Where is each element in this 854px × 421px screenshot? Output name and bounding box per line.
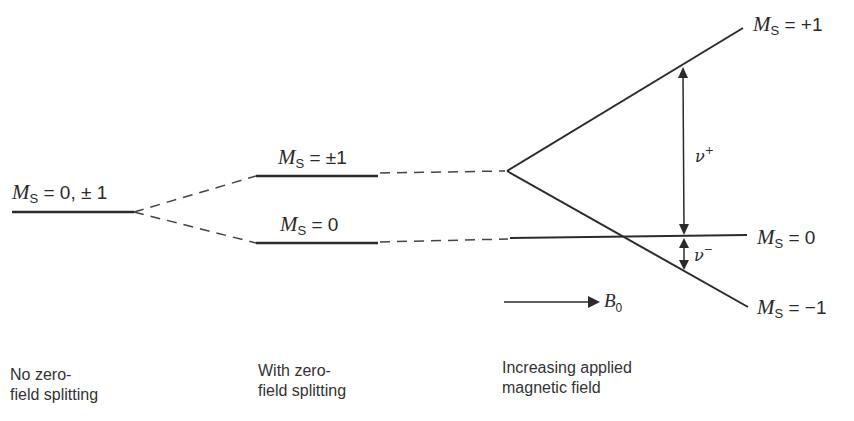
- level-field-minus: [507, 171, 748, 307]
- value: = ±1: [309, 147, 346, 168]
- caption-line: field splitting: [258, 381, 346, 401]
- symbol: ν: [694, 246, 704, 265]
- value: = +1: [784, 14, 822, 35]
- caption-with-zfs: With zero- field splitting: [258, 361, 346, 401]
- symbol: M: [280, 212, 298, 236]
- value: = 0, ± 1: [43, 182, 107, 203]
- caption-line: Increasing applied: [502, 358, 632, 378]
- symbol: M: [12, 180, 30, 204]
- nu-minus-label: ν−: [694, 243, 713, 265]
- label-zfs-upper: MS = ±1: [278, 147, 347, 170]
- energy-level-diagram: [0, 0, 854, 421]
- symbol: M: [757, 225, 775, 249]
- label-zfs-lower: MS = 0: [280, 214, 338, 237]
- symbol: M: [278, 145, 296, 169]
- arrowhead-down-icon: [679, 224, 689, 235]
- symbol: M: [757, 295, 775, 319]
- label-field-minus: MS = −1: [757, 297, 827, 320]
- field-label: B0: [604, 290, 622, 315]
- value: = 0: [311, 214, 338, 235]
- symbol: B: [604, 290, 616, 311]
- symbol: M: [753, 12, 771, 36]
- nu-plus-label: ν+: [695, 144, 714, 166]
- level-field-zero: [510, 235, 747, 238]
- nu-plus-arrow: [683, 75, 684, 230]
- dashed-split-upper: [134, 176, 256, 212]
- label-field-plus: MS = +1: [753, 14, 823, 37]
- dashed-continue-upper: [380, 171, 505, 173]
- subscript: S: [775, 306, 784, 321]
- subscript: S: [296, 156, 305, 171]
- arrowhead-right-icon: [588, 296, 600, 308]
- caption-line: field splitting: [10, 385, 98, 405]
- subscript: 0: [616, 301, 623, 315]
- subscript: S: [771, 23, 780, 38]
- caption-line: With zero-: [258, 361, 346, 381]
- label-field-zero: MS = 0: [757, 227, 815, 250]
- dashed-split-lower: [134, 212, 256, 243]
- arrowhead-up-icon: [678, 67, 688, 78]
- caption-line: No zero-: [10, 365, 98, 385]
- superscript: −: [704, 243, 713, 256]
- subscript: S: [775, 236, 784, 251]
- caption-no-zfs: No zero- field splitting: [10, 365, 98, 405]
- caption-line: magnetic field: [502, 378, 632, 398]
- superscript: +: [705, 144, 714, 157]
- value: = 0: [788, 227, 815, 248]
- value: = −1: [788, 297, 826, 318]
- subscript: S: [30, 191, 39, 206]
- caption-field: Increasing applied magnetic field: [502, 358, 632, 398]
- symbol: ν: [695, 147, 705, 166]
- subscript: S: [298, 223, 307, 238]
- label-no-zfs: MS = 0, ± 1: [12, 182, 107, 205]
- arrowhead-up-icon: [679, 238, 689, 248]
- dashed-continue-lower: [380, 239, 508, 242]
